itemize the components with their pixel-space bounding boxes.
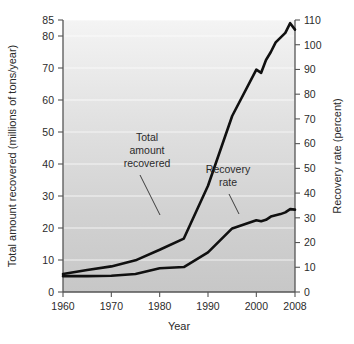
annotation-line-1: Total xyxy=(136,131,158,143)
x-tick-label: 2008 xyxy=(283,300,307,312)
left-tick-label: 0 xyxy=(48,286,54,298)
left-tick-label: 60 xyxy=(42,94,54,106)
right-tick-label: 40 xyxy=(304,187,316,199)
left-tick-label: 85 xyxy=(42,14,54,26)
left-tick-label: 30 xyxy=(42,190,54,202)
right-tick-label: 50 xyxy=(304,162,316,174)
left-tick-label: 50 xyxy=(42,126,54,138)
left-tick-label: 10 xyxy=(42,254,54,266)
right-tick-label: 110 xyxy=(304,14,321,26)
x-tick-label: 1980 xyxy=(148,300,172,312)
annotation-line-1: Recovery xyxy=(206,163,251,175)
left-tick-label: 40 xyxy=(42,158,54,170)
x-axis-title: Year xyxy=(168,320,191,332)
left-tick-label: 20 xyxy=(42,222,54,234)
left-tick-label: 80 xyxy=(42,30,54,42)
chart-figure: 0102030405060708085 01020304050607080901… xyxy=(0,0,354,344)
line-chart: 0102030405060708085 01020304050607080901… xyxy=(0,0,354,344)
right-tick-label: 80 xyxy=(304,88,316,100)
left-tick-label: 70 xyxy=(42,62,54,74)
right-tick-label: 90 xyxy=(304,63,316,75)
annotation-line-2: rate xyxy=(219,176,237,188)
annotation-line-2: amount xyxy=(129,144,164,156)
x-tick-label: 2000 xyxy=(245,300,269,312)
right-tick-label: 60 xyxy=(304,137,316,149)
right-tick-label: 70 xyxy=(304,113,316,125)
right-tick-label: 30 xyxy=(304,212,316,224)
right-tick-label: 100 xyxy=(304,39,322,51)
right-tick-label: 10 xyxy=(304,261,316,273)
annotation-line-3: recovered xyxy=(124,157,171,169)
y-axis-title: Total amount recovered (millions of tons… xyxy=(6,45,18,268)
x-tick-label: 1970 xyxy=(100,300,124,312)
plot-area-background xyxy=(63,20,295,292)
y2-axis-title: Recovery rate (percent) xyxy=(331,98,343,214)
x-tick-label: 1960 xyxy=(51,300,75,312)
right-tick-label: 20 xyxy=(304,236,316,248)
right-tick-label: 0 xyxy=(304,286,310,298)
x-tick-label: 1990 xyxy=(196,300,220,312)
